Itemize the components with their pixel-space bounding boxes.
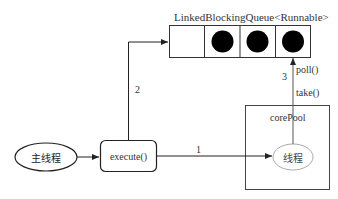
queue-title: LinkedBlockingQueue<Runnable> [174,11,329,23]
main-thread-node: 主线程 [15,143,77,171]
worker-thread-label: 线程 [283,150,303,165]
queue-task-icon [282,31,304,53]
execute-label: execute() [110,151,147,162]
take-label: take() [296,87,319,99]
execute-node: execute() [100,140,157,172]
edge-1-label: 1 [196,144,201,156]
queue-task-icon [212,31,234,53]
poll-label: poll() [296,64,318,76]
worker-thread-node: 线程 [273,144,313,170]
core-pool-label: corePool [270,112,306,124]
queue-task-icon [247,31,269,53]
queue-box [170,26,311,58]
edge-2-label: 2 [135,84,140,96]
main-thread-label: 主线程 [31,150,61,165]
edge-3-label: 3 [282,71,287,83]
